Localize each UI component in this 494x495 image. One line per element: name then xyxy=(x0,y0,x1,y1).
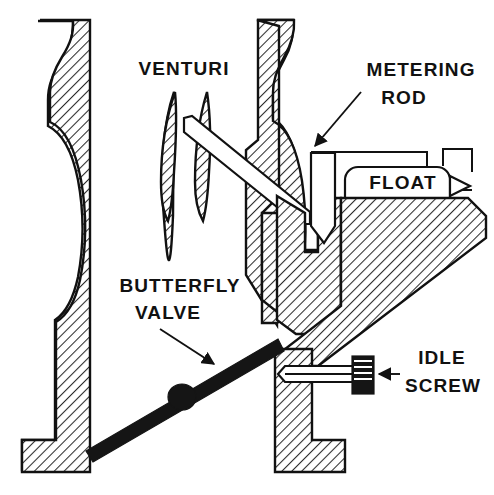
carburetor-diagram: VENTURI METERING ROD FLOAT BUTTERFLY VAL… xyxy=(0,0,494,495)
metering-rod-label-line1: METERING xyxy=(366,59,475,80)
float-label: FLOAT xyxy=(369,172,436,193)
butterfly-valve-label-line1: BUTTERFLY xyxy=(119,275,240,296)
metering-rod xyxy=(311,153,335,243)
butterfly-valve-label-line2: VALVE xyxy=(135,302,201,323)
venturi-label: VENTURI xyxy=(138,58,229,79)
idle-screw-label-line1: IDLE xyxy=(418,347,466,368)
metering-rod-label-line2: ROD xyxy=(381,87,427,108)
idle-screw-label-line2: SCREW xyxy=(405,375,481,396)
carburetor-cross-section-svg: VENTURI METERING ROD FLOAT BUTTERFLY VAL… xyxy=(0,0,494,495)
